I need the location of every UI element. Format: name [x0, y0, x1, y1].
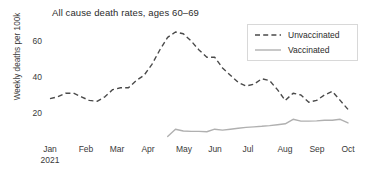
- legend-swatch-dashed-icon: [254, 30, 282, 40]
- legend-item-unvaccinated: Unvaccinated: [254, 28, 340, 42]
- legend-label: Vaccinated: [288, 45, 329, 55]
- legend-swatch-solid-icon: [254, 45, 282, 55]
- legend-item-vaccinated: Vaccinated: [254, 43, 329, 57]
- chart-figure: All cause death rates, ages 60–69 Weekly…: [0, 0, 366, 179]
- legend-label: Unvaccinated: [288, 30, 340, 40]
- series-line-vaccinated: [168, 119, 348, 136]
- legend: Unvaccinated Vaccinated: [247, 24, 358, 61]
